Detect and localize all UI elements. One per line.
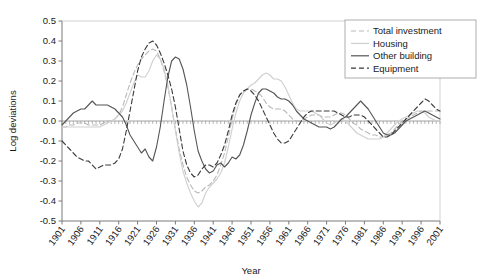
y-tick-label: -0.3 [40, 175, 56, 186]
x-tick-label: 1941 [197, 224, 218, 248]
x-tick-label: 1921 [122, 224, 143, 248]
x-tick-label: 1931 [159, 224, 180, 248]
x-tick-label: 1951 [235, 224, 256, 248]
x-tick-label: 1971 [311, 224, 332, 248]
line-chart: 0.50.40.30.20.10.0-0.1-0.2-0.3-0.4-0.5 1… [0, 0, 482, 280]
chart-figure: 0.50.40.30.20.10.0-0.1-0.2-0.3-0.4-0.5 1… [0, 0, 482, 280]
x-tick-label: 1986 [367, 224, 388, 248]
x-tick-label: 1976 [330, 224, 351, 248]
y-tick-label: 0.4 [43, 35, 56, 46]
y-axis-label: Log deviations [7, 90, 18, 152]
y-tick-label: -0.2 [40, 155, 56, 166]
y-tick-label: 0.5 [43, 15, 56, 26]
x-tick-label: 1906 [65, 224, 86, 248]
y-tick-label: -0.1 [40, 135, 56, 146]
x-tick-label: 1956 [254, 224, 275, 248]
x-tick-label: 1966 [292, 224, 313, 248]
chart-legend: Total investmentHousingOther buildingEqu… [345, 20, 476, 78]
legend-label: Housing [373, 38, 408, 49]
x-tick-label: 1991 [386, 224, 407, 248]
x-tick-label: 1901 [46, 224, 67, 248]
x-tick-label: 2001 [424, 224, 445, 248]
x-tick-label: 1911 [84, 224, 105, 247]
legend-label: Other building [373, 50, 432, 61]
x-tick-label: 1946 [216, 224, 237, 248]
y-tick-label: 0.2 [43, 75, 56, 86]
x-axis-ticks: 1901190619111916192119261931193619411946… [46, 221, 445, 247]
legend-label: Total investment [373, 25, 442, 36]
x-tick-label: 1916 [103, 224, 124, 248]
x-tick-label: 1981 [348, 224, 369, 248]
y-tick-label: 0.3 [43, 55, 56, 66]
x-tick-label: 1996 [405, 224, 426, 248]
y-tick-label: 0.1 [43, 95, 56, 106]
legend-label: Equipment [373, 63, 419, 74]
x-tick-label: 1936 [178, 224, 199, 248]
x-axis-label: Year [241, 265, 260, 276]
zero-line [62, 121, 440, 124]
x-tick-label: 1926 [141, 224, 162, 248]
y-tick-label: -0.5 [40, 215, 56, 226]
x-tick-label: 1961 [273, 224, 294, 248]
y-tick-label: -0.4 [40, 195, 56, 206]
y-axis-ticks: 0.50.40.30.20.10.0-0.1-0.2-0.3-0.4-0.5 [40, 15, 62, 226]
y-tick-label: 0.0 [43, 115, 56, 126]
